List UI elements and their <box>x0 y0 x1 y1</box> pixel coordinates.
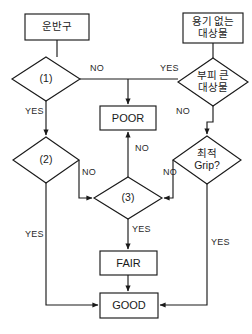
node-poor <box>100 106 156 130</box>
flowchart-diagram: 운반구 용기 없는 대상물 (1) 부피 큰 대상물 POOR (2) 최적 G… <box>0 0 252 334</box>
edge-label-bulky-no: NO <box>176 106 190 116</box>
node-decision-1 <box>12 57 80 101</box>
node-good <box>100 293 158 318</box>
edge-label-grip-yes: YES <box>211 237 230 247</box>
node-decision-bulky <box>178 58 248 106</box>
edge-label-d3-yes: YES <box>132 224 151 234</box>
edge-bulky-no-to-grip <box>207 106 213 134</box>
edge-label-d3-no-poor: NO <box>135 143 149 153</box>
edge-label-d1-no: NO <box>90 63 104 73</box>
edge-label-d2-no: NO <box>82 167 96 177</box>
edge-label-bulky-yes: YES <box>160 63 179 73</box>
edge-grip-no-to-d3 <box>164 160 173 198</box>
edge-d2-yes-to-good <box>46 183 98 305</box>
edge-label-d2-yes: YES <box>25 229 44 239</box>
node-start-left <box>25 14 89 40</box>
node-decision-2 <box>13 137 79 183</box>
node-fair <box>100 251 157 275</box>
edge-label-grip-no: NO <box>163 167 177 177</box>
edge-grip-yes-to-good <box>160 184 207 305</box>
edge-d2-no-to-d3 <box>79 160 92 198</box>
node-start-right <box>183 13 243 43</box>
edge-label-d1-yes: YES <box>25 106 44 116</box>
node-decision-grip <box>173 136 241 184</box>
node-decision-3 <box>94 177 162 219</box>
flowchart-canvas <box>0 0 252 334</box>
